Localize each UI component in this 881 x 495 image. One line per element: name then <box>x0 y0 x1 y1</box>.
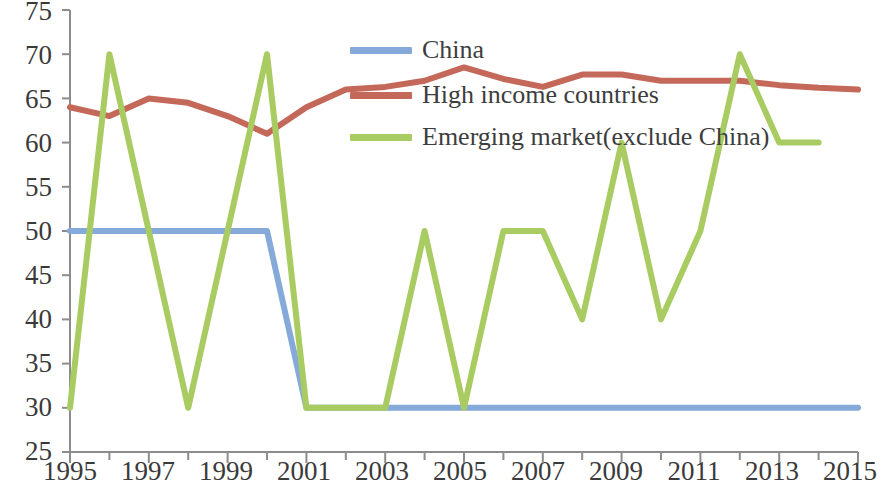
legend-swatch-china <box>350 47 412 54</box>
legend-item-emerging[interactable]: Emerging market(exclude China) <box>350 124 770 150</box>
legend-swatch-high-income <box>350 92 412 99</box>
legend-item-high-income[interactable]: High income countries <box>350 82 659 108</box>
legend-label-china: China <box>422 37 484 63</box>
legend-swatch-emerging <box>350 134 412 141</box>
legend-item-china[interactable]: China <box>350 37 484 63</box>
legend-label-emerging: Emerging market(exclude China) <box>422 124 770 150</box>
legend-label-high-income: High income countries <box>422 82 659 108</box>
